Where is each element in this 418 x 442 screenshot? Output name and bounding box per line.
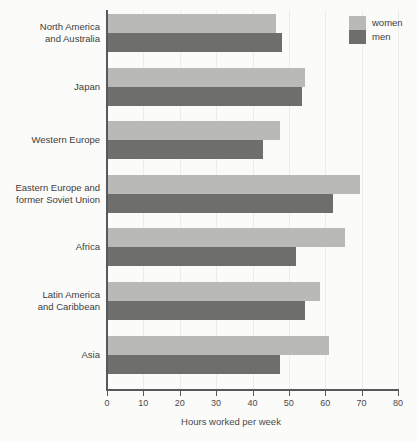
x-axis-tick-label: 50 [284,398,294,408]
x-axis-tick [216,390,217,396]
x-axis-tick-label: 10 [138,398,148,408]
bar-group [107,228,398,266]
category-label: Latin Americaand Caribbean [0,289,100,313]
legend-label-men: men [372,31,390,42]
bar-group [107,175,398,213]
gridline [398,10,399,390]
bar-chart: 01020304050607080 North Americaand Austr… [0,0,418,442]
bar-men [107,33,282,52]
bar-group [107,282,398,320]
bar-women [107,175,360,194]
x-axis-tick [107,390,108,396]
bar-men [107,247,296,266]
plot-area [107,10,398,390]
category-label: Western Europe [0,134,100,146]
x-axis-tick-label: 40 [247,398,257,408]
x-axis-tick [180,390,181,396]
bar-group [107,336,398,374]
legend-label-women: women [372,17,403,28]
bar-women [107,282,320,301]
category-label: Asia [0,349,100,361]
bar-men [107,194,333,213]
bar-men [107,140,263,159]
x-axis-tick-label: 0 [104,398,109,408]
x-axis-tick [143,390,144,396]
bar-men [107,87,302,106]
legend-swatch-women-icon [349,16,366,30]
x-axis-tick-label: 20 [175,398,185,408]
x-axis-tick [253,390,254,396]
x-axis-tick-label: 70 [357,398,367,408]
bar-group [107,68,398,106]
x-axis-tick [325,390,326,396]
bar-women [107,14,276,33]
y-axis-line [106,10,108,391]
x-axis-title-text: Hours worked per week [137,416,281,427]
bar-men [107,355,280,374]
legend-swatch-men-icon [349,30,366,44]
bar-women [107,336,329,355]
bar-men [107,301,305,320]
bar-group [107,121,398,159]
x-axis-tick-label: 30 [211,398,221,408]
bar-women [107,228,345,247]
x-axis-tick [289,390,290,396]
category-label: Japan [0,81,100,93]
bar-women [107,68,305,87]
bar-women [107,121,280,140]
x-axis-tick [398,390,399,396]
x-axis-tick [362,390,363,396]
x-axis-tick-label: 80 [393,398,403,408]
category-label: Eastern Europe andformer Soviet Union [0,182,100,206]
category-label: Africa [0,241,100,253]
x-axis-title: Hours worked per week [0,416,418,427]
x-axis-tick-label: 60 [320,398,330,408]
category-label: North Americaand Australia [0,21,100,45]
